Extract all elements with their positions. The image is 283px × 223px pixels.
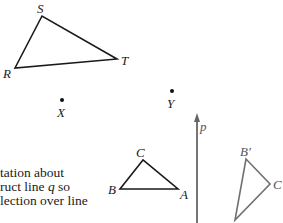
point-x (60, 98, 64, 102)
triangle-abc (120, 160, 178, 189)
label-t: T (121, 54, 128, 67)
triangle-image (235, 159, 270, 220)
label-b-prime: B′ (240, 145, 251, 158)
variable-q: q (48, 179, 55, 194)
label-s: S (37, 2, 44, 15)
label-x: X (57, 106, 65, 119)
label-b: B (108, 183, 116, 196)
label-y: Y (167, 97, 174, 110)
text-line-2: ruct line q so (0, 180, 70, 194)
label-r: R (3, 67, 11, 80)
text-line-3: lection over line (0, 194, 88, 208)
text-line-2-pre: ruct line (0, 179, 48, 194)
text-line-1: tation about (0, 166, 64, 180)
text-line-2-post: so (55, 179, 70, 194)
triangle-rst (15, 16, 117, 68)
label-a: A (180, 188, 188, 201)
label-c: C (136, 146, 145, 159)
label-p: p (200, 120, 207, 133)
point-y (170, 89, 174, 93)
label-c-prime: C (273, 178, 282, 191)
